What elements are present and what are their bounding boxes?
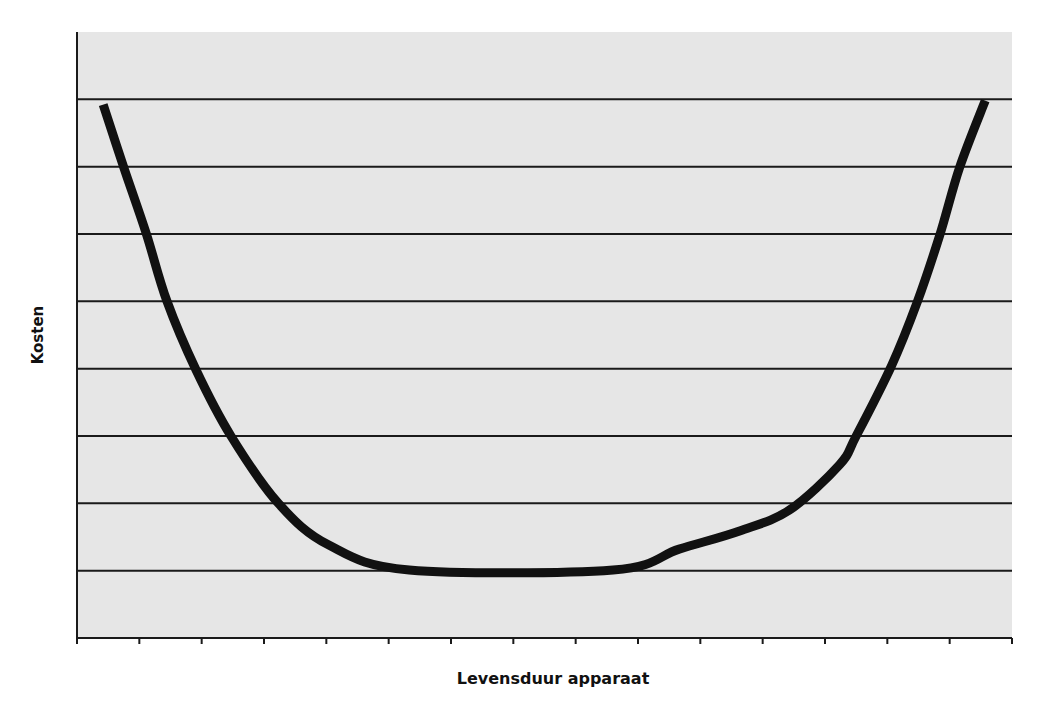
chart-canvas	[0, 0, 1044, 717]
y-axis-label: Kosten	[29, 306, 47, 365]
plot-area	[77, 32, 1012, 638]
x-axis-label: Levensduur apparaat	[457, 669, 650, 688]
